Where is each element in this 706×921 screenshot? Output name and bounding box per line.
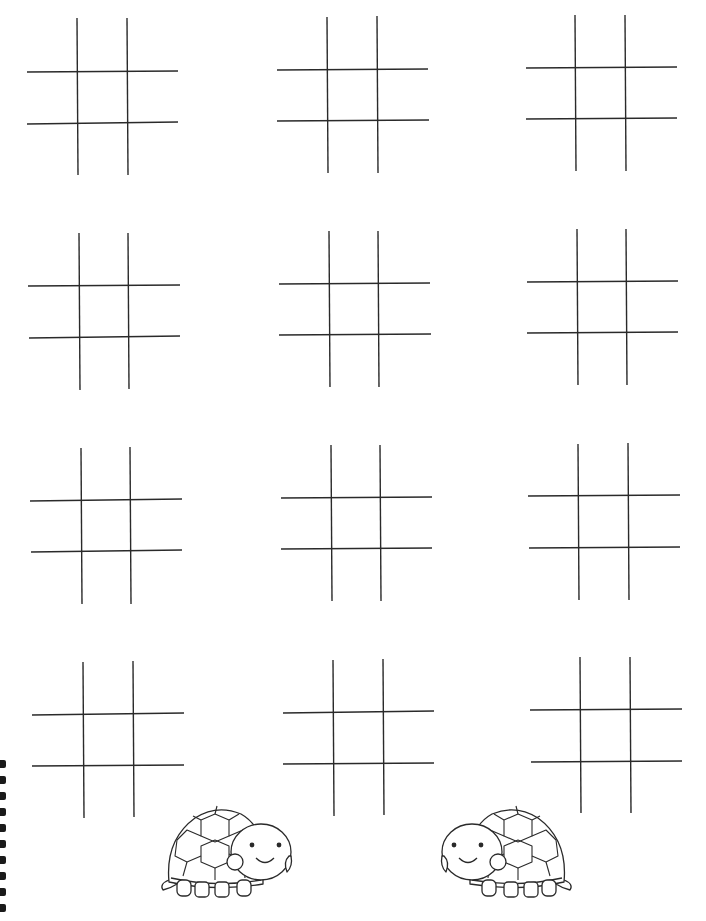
grid-line-horizontal [279,334,431,335]
turtle-right-illustration [438,800,578,900]
grid-line-vertical [628,443,629,600]
tic-tac-toe-board-r3-c3[interactable] [528,443,680,600]
tic-tac-toe-worksheet [0,0,706,921]
grid-line-horizontal [32,765,184,766]
tic-tac-toe-board-r1-c3[interactable] [526,15,677,171]
board-area[interactable] [530,657,682,813]
turtle-left-illustration [155,800,295,900]
grid-line-horizontal [529,547,680,548]
grid-line-vertical [577,229,578,385]
board-area[interactable] [283,659,434,816]
tic-tac-toe-board-r2-c1[interactable] [28,233,180,390]
grid-line-vertical [578,444,579,600]
tic-tac-toe-board-r2-c2[interactable] [279,231,431,387]
grid-line-horizontal [279,283,430,284]
board-area[interactable] [526,15,677,171]
tic-tac-toe-board-r4-c2[interactable] [283,659,434,816]
grid-line-vertical [83,662,84,818]
grid-line-horizontal [281,497,432,498]
grid-line-horizontal [528,495,680,496]
grid-line-vertical [378,231,379,387]
grid-line-vertical [79,233,80,390]
grid-line-horizontal [277,120,429,121]
grid-line-vertical [630,657,631,813]
tic-tac-toe-board-r1-c2[interactable] [277,16,429,173]
tic-tac-toe-board-r1-c1[interactable] [27,18,178,175]
board-area[interactable] [27,18,178,175]
grid-line-vertical [77,18,78,175]
grid-line-vertical [329,231,330,387]
tic-tac-toe-board-r3-c1[interactable] [30,447,182,604]
board-area[interactable] [281,445,432,601]
boards-layer [0,0,706,921]
board-area[interactable] [528,443,680,600]
board-area[interactable] [277,16,429,173]
grid-line-vertical [580,657,581,813]
grid-line-vertical [127,18,128,175]
grid-line-horizontal [28,285,180,286]
grid-line-horizontal [530,709,682,710]
board-area[interactable] [32,661,184,818]
grid-line-horizontal [527,332,678,333]
board-area[interactable] [527,229,678,385]
grid-line-vertical [81,448,82,604]
board-area[interactable] [279,231,431,387]
tic-tac-toe-board-r4-c3[interactable] [530,657,682,813]
grid-line-horizontal [531,761,682,762]
tic-tac-toe-board-r4-c1[interactable] [32,661,184,818]
grid-line-horizontal [527,281,678,282]
grid-line-vertical [625,15,626,171]
grid-line-vertical [130,447,131,604]
grid-line-vertical [333,660,334,816]
grid-line-horizontal [27,71,178,72]
grid-line-vertical [380,445,381,601]
grid-line-horizontal [526,67,677,68]
grid-line-vertical [626,229,627,385]
board-area[interactable] [30,447,182,604]
grid-line-vertical [575,15,576,171]
grid-line-horizontal [526,118,677,119]
grid-line-vertical [383,659,384,815]
grid-line-vertical [133,661,134,817]
grid-line-vertical [331,445,332,601]
grid-line-vertical [327,17,328,173]
board-area[interactable] [28,233,180,390]
grid-line-vertical [128,233,129,389]
grid-line-vertical [377,16,378,173]
grid-line-horizontal [281,548,432,549]
grid-line-horizontal [283,763,434,764]
grid-line-horizontal [277,69,428,70]
tic-tac-toe-board-r3-c2[interactable] [281,445,432,601]
tic-tac-toe-board-r2-c3[interactable] [527,229,678,385]
